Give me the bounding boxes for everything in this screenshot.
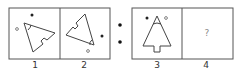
separator-dot-top <box>118 23 122 27</box>
hollow-dot <box>87 50 90 53</box>
panel-label-3: 3 <box>154 60 160 70</box>
tree-triangle-shape <box>143 16 171 52</box>
notched-triangle-shape <box>66 14 94 45</box>
separator-dot-bottom <box>118 40 122 44</box>
question-mark: ? <box>205 28 210 38</box>
hollow-dot <box>165 17 168 20</box>
solid-dot <box>146 17 149 20</box>
panel-label-2: 2 <box>81 60 87 70</box>
panel-label-1: 1 <box>32 60 38 70</box>
solid-dot <box>31 14 34 17</box>
panel-1: 1 <box>16 14 55 71</box>
notched-triangle-shape <box>24 23 55 52</box>
panel-group-left <box>9 8 110 59</box>
panel-label-4: 4 <box>203 60 209 70</box>
hollow-dot <box>16 28 19 31</box>
panel-4[interactable]: ? 4 <box>203 28 209 70</box>
solid-dot <box>101 35 104 38</box>
panel-3: 3 <box>143 16 171 70</box>
panel-group-right <box>132 8 233 59</box>
analogy-diagram: 1 2 3 ? 4 <box>0 0 234 71</box>
analogy-separator <box>118 23 122 44</box>
panel-2: 2 <box>66 14 104 70</box>
